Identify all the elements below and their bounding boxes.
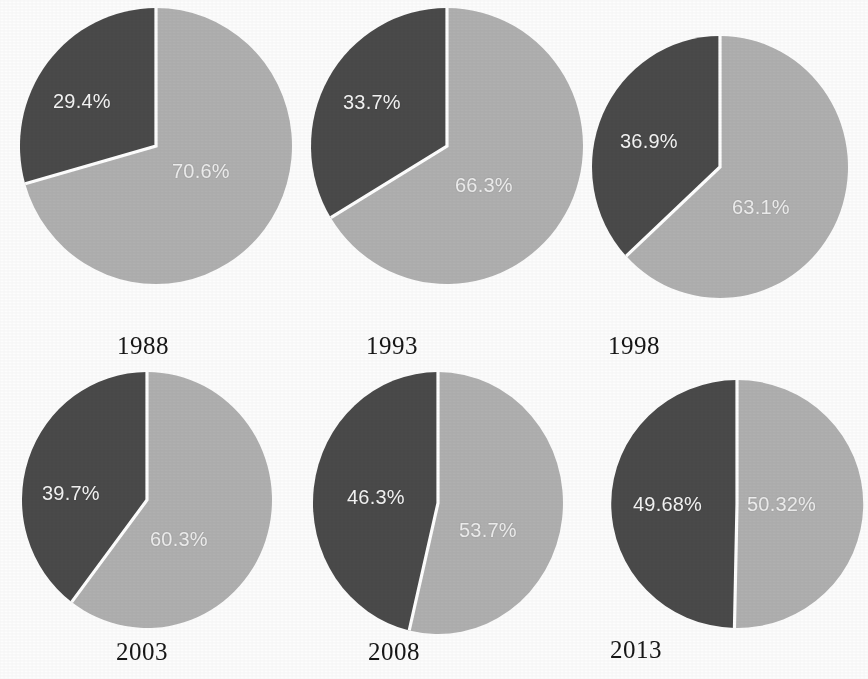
pie-label-dark-2003: 39.7%: [42, 482, 100, 505]
pie-year-label-1993: 1993: [366, 332, 418, 360]
pie-panel-1993: 33.7% 66.3%: [311, 8, 583, 284]
pie-label-light-2008: 53.7%: [459, 519, 517, 542]
pie-year-label-1998: 1998: [608, 332, 660, 360]
pie-panel-1988: 29.4% 70.6%: [20, 8, 292, 284]
pie-label-light-2003: 60.3%: [150, 528, 208, 551]
pie-label-light-1993: 66.3%: [455, 174, 513, 197]
pie-label-dark-1993: 33.7%: [343, 91, 401, 114]
pie-panel-2003: 39.7% 60.3%: [22, 372, 272, 628]
pie-label-dark-1998: 36.9%: [620, 130, 678, 153]
pie-year-label-2013: 2013: [610, 636, 662, 664]
pie-year-label-2008: 2008: [368, 638, 420, 666]
pie-label-dark-1988: 29.4%: [53, 90, 111, 113]
pie-label-light-1988: 70.6%: [172, 160, 230, 183]
pie-chart-1998: [592, 36, 848, 298]
pie-label-light-1998: 63.1%: [732, 196, 790, 219]
pie-panel-2008: 46.3% 53.7%: [313, 372, 563, 634]
pie-chart-1988: [20, 8, 292, 284]
pie-year-label-1988: 1988: [117, 332, 169, 360]
pie-chart-1993: [311, 8, 583, 284]
pie-chart-figure: 29.4% 70.6% 1988 33.7% 66.3% 1993 36.9% …: [0, 0, 868, 679]
pie-label-dark-2013: 49.68%: [633, 493, 702, 516]
pie-panel-2013: 49.68% 50.32%: [611, 380, 863, 628]
pie-panel-1998: 36.9% 63.1%: [592, 36, 848, 298]
pie-label-light-2013: 50.32%: [747, 493, 816, 516]
pie-label-dark-2008: 46.3%: [347, 486, 405, 509]
pie-year-label-2003: 2003: [116, 638, 168, 666]
